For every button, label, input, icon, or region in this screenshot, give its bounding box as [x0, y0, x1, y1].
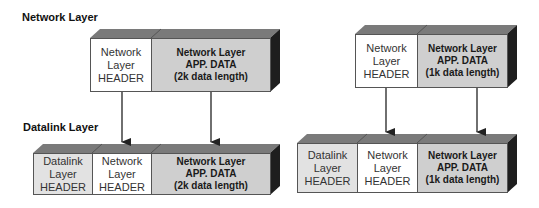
left-network-data-text: Network Layer APP. DATA (2k data length): [174, 47, 248, 83]
right-network-data: Network Layer APP. DATA (1k data length): [417, 34, 508, 88]
left-datalink-header: Datalink Layer HEADER: [33, 153, 93, 195]
left-frame-data-text: Network Layer APP. DATA (2k data length): [174, 156, 248, 192]
left-frame-network-header-text: Network Layer HEADER: [99, 155, 145, 194]
right-network-data-text: Network Layer APP. DATA (1k data length): [426, 43, 500, 79]
right-frame-network-header-text: Network Layer HEADER: [365, 149, 411, 188]
left-network-header-text: Network Layer HEADER: [98, 46, 144, 85]
left-network-header: Network Layer HEADER: [90, 38, 152, 92]
right-frame-data: Network Layer APP. DATA (1k data length): [417, 143, 508, 193]
right-frame-data-text: Network Layer APP. DATA (1k data length): [426, 150, 500, 186]
left-frame-data: Network Layer APP. DATA (2k data length): [151, 153, 271, 195]
datalink-layer-label: Datalink Layer: [23, 121, 98, 133]
right-datalink-header: Datalink Layer HEADER: [297, 143, 358, 193]
right-datalink-header-text: Datalink Layer HEADER: [305, 149, 351, 188]
left-datalink-header-text: Datalink Layer HEADER: [40, 155, 86, 194]
right-network-header-text: Network Layer HEADER: [364, 42, 410, 81]
right-network-header: Network Layer HEADER: [355, 34, 418, 88]
network-layer-label: Network Layer: [22, 11, 98, 23]
left-network-data: Network Layer APP. DATA (2k data length): [151, 38, 271, 92]
right-frame-network-header: Network Layer HEADER: [357, 143, 418, 193]
left-frame-network-header: Network Layer HEADER: [92, 153, 152, 195]
